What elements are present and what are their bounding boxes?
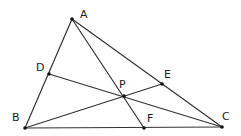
segment-ca <box>72 19 222 127</box>
point-c <box>220 125 224 129</box>
diagram-labels: ABCDEFP <box>12 8 230 125</box>
label-a: A <box>80 8 88 21</box>
point-b <box>23 126 27 130</box>
segment-bc <box>25 127 222 128</box>
point-a <box>70 17 74 21</box>
segment-cd <box>49 74 222 127</box>
segment-af <box>72 19 144 128</box>
point-f <box>142 126 146 130</box>
triangle-diagram: ABCDEFP <box>0 0 241 136</box>
label-f: F <box>147 112 153 125</box>
diagram-segments <box>25 19 222 128</box>
point-p <box>122 94 126 98</box>
label-d: D <box>36 61 44 74</box>
label-e: E <box>164 68 171 81</box>
label-c: C <box>222 110 230 123</box>
point-d <box>47 72 51 76</box>
diagram-points <box>23 17 224 130</box>
segment-be <box>25 84 162 128</box>
point-e <box>160 82 164 86</box>
label-b: B <box>12 111 20 124</box>
label-p: P <box>119 78 126 91</box>
